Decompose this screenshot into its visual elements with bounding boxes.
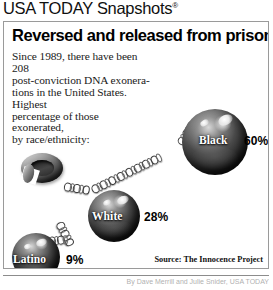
brand-name: USA TODAY Snapshots — [3, 0, 172, 17]
byline-divider — [3, 275, 269, 276]
category-label-latino: Latino — [13, 253, 46, 265]
ball-highlight — [102, 199, 111, 207]
ball-highlight — [23, 242, 31, 250]
source-attribution: Source: The Innocence Project — [154, 255, 263, 264]
value-label-white: 28% — [144, 210, 168, 224]
infographic-panel: Reversed and released from prison Since … — [3, 21, 269, 269]
byline-credit: By Dave Merrill and Julie Snider, USA TO… — [3, 278, 269, 288]
value-label-latino: 9% — [66, 253, 84, 267]
ball-highlight — [200, 118, 211, 128]
category-label-black: Black — [199, 134, 228, 146]
chain-link — [63, 235, 69, 245]
registered-trademark-icon: ® — [172, 1, 178, 10]
chain-segment — [63, 182, 94, 196]
ball-highlight — [116, 194, 130, 206]
chain-segment — [90, 143, 184, 195]
brand-title: USA TODAY Snapshots® — [3, 0, 178, 18]
ball-highlight — [35, 237, 48, 247]
usa-today-snapshot-infographic: USA TODAY Snapshots® Reversed and releas… — [0, 0, 273, 290]
ball-highlight — [216, 112, 234, 127]
value-label-black: 60% — [244, 134, 268, 148]
ball-and-chain-illustration: Black 60% White 28% Latino 9% — [4, 22, 268, 268]
shackle-cuff-icon — [21, 153, 67, 187]
category-label-white: White — [92, 210, 123, 222]
